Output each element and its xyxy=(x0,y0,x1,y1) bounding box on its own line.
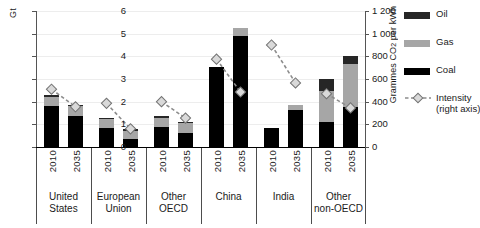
bar-segment-coal xyxy=(319,122,334,147)
y-tick-label-right: 1 000 xyxy=(372,29,406,39)
gridline xyxy=(37,124,365,125)
legend-item-coal[interactable]: Coal xyxy=(404,64,472,92)
bar-segment-oil xyxy=(68,105,83,106)
gridline xyxy=(37,56,365,57)
y-tick-label-left: 3 xyxy=(96,74,126,84)
y-tick-label-right: 0 xyxy=(372,142,406,152)
bar-segment-gas xyxy=(123,131,138,139)
x-tick-year-label: 2010 xyxy=(102,150,113,172)
x-tick-year-label: 2010 xyxy=(322,150,333,172)
legend-swatch-icon xyxy=(404,40,430,47)
legend-label: Gas xyxy=(436,36,453,47)
legend-item-gas[interactable]: Gas xyxy=(404,36,472,64)
bar-segment-coal xyxy=(209,67,224,147)
y-tick-left xyxy=(32,79,36,80)
legend-item-oil[interactable]: Oil xyxy=(404,8,472,36)
y-tick-right xyxy=(365,56,369,57)
group-label-india: India xyxy=(256,191,311,203)
bar-segment-oil xyxy=(178,122,193,124)
y-axis-left-title: Gt xyxy=(8,8,18,18)
y-tick-left xyxy=(32,124,36,125)
y-tick-label-right: 400 xyxy=(372,97,406,107)
bar-segment-coal xyxy=(44,106,59,147)
group-label-other-oecd: OtherOECD xyxy=(146,191,201,214)
plot-area xyxy=(36,11,366,148)
bar-segment-coal xyxy=(154,127,169,147)
bar-united-states-2010 xyxy=(44,11,59,147)
bar-united-states-2035 xyxy=(68,11,83,147)
gridline xyxy=(37,102,365,103)
x-tick-year-label: 2035 xyxy=(126,150,137,172)
bar-segment-gas xyxy=(343,64,358,107)
y-tick-label-left: 4 xyxy=(96,51,126,61)
legend-swatch-icon xyxy=(404,12,430,19)
y-tick-label-right: 800 xyxy=(372,51,406,61)
y-tick-left xyxy=(32,56,36,57)
bar-segment-gas xyxy=(68,106,83,116)
y-tick-right xyxy=(365,102,369,103)
bar-segment-oil xyxy=(319,79,334,92)
bar-segment-gas xyxy=(178,123,193,133)
group-label-european-union: EuropeanUnion xyxy=(91,191,146,214)
group-label-united-states: UnitedStates xyxy=(36,191,91,214)
group-separator xyxy=(36,148,37,224)
y-tick-right xyxy=(365,11,369,12)
bar-other-oecd-2035 xyxy=(178,11,193,147)
legend-label: Coal xyxy=(436,64,456,75)
bar-segment-coal xyxy=(233,36,248,147)
group-label-china: China xyxy=(201,191,256,203)
x-tick-year-label: 2035 xyxy=(291,150,302,172)
bar-segment-coal xyxy=(288,110,303,147)
y-tick-label-left: 6 xyxy=(96,6,126,16)
y-tick-label-left: 2 xyxy=(96,97,126,107)
x-tick-year-label: 2035 xyxy=(236,150,247,172)
y-tick-left xyxy=(32,34,36,35)
bar-segment-coal xyxy=(178,133,193,147)
x-tick-year-label: 2010 xyxy=(157,150,168,172)
bar-segment-coal xyxy=(264,128,279,147)
y-tick-right xyxy=(365,79,369,80)
y-tick-label-right: 200 xyxy=(372,119,406,129)
group-separator xyxy=(201,148,202,224)
gridline xyxy=(37,34,365,35)
group-separator xyxy=(365,148,366,224)
legend-label: Intensity(right axis) xyxy=(436,92,480,114)
bar-segment-coal xyxy=(343,107,358,147)
y-tick-label-left: 5 xyxy=(96,29,126,39)
x-tick-year-label: 2035 xyxy=(346,150,357,172)
bar-india-2035 xyxy=(288,11,303,147)
legend-item-intensity[interactable]: Intensity(right axis) xyxy=(404,92,472,122)
bar-segment-gas xyxy=(44,97,59,106)
y-tick-label-left: 0 xyxy=(96,142,126,152)
x-tick-year-label: 2010 xyxy=(47,150,58,172)
y-tick-left xyxy=(32,11,36,12)
y-tick-label-right: 600 xyxy=(372,74,406,84)
bar-segment-coal xyxy=(68,116,83,147)
group-separator xyxy=(256,148,257,224)
x-tick-year-label: 2010 xyxy=(212,150,223,172)
category-axis: 20102035UnitedStates20102035EuropeanUnio… xyxy=(36,148,366,226)
x-tick-year-label: 2035 xyxy=(181,150,192,172)
y-tick-right xyxy=(365,124,369,125)
bar-other-non-oecd-2035 xyxy=(343,11,358,147)
bar-other-oecd-2010 xyxy=(154,11,169,147)
bar-india-2010 xyxy=(264,11,279,147)
y-tick-label-right: 1 200 xyxy=(372,6,406,16)
bar-segment-oil xyxy=(154,116,169,118)
bar-segment-gas xyxy=(154,118,169,127)
legend-label: Oil xyxy=(436,8,448,19)
bar-segment-oil xyxy=(123,129,138,130)
x-tick-year-label: 2035 xyxy=(71,150,82,172)
bar-segment-gas xyxy=(319,91,334,122)
bar-china-2010 xyxy=(209,11,224,147)
bar-china-2035 xyxy=(233,11,248,147)
gridline xyxy=(37,79,365,80)
x-tick-year-label: 2010 xyxy=(267,150,278,172)
bar-other-non-oecd-2010 xyxy=(319,11,334,147)
group-label-other-non-oecd: Othernon-OECD xyxy=(311,191,366,214)
y-tick-label-left: 1 xyxy=(96,119,126,129)
y-tick-left xyxy=(32,102,36,103)
bar-segment-oil xyxy=(44,95,59,97)
gridline xyxy=(37,11,365,12)
